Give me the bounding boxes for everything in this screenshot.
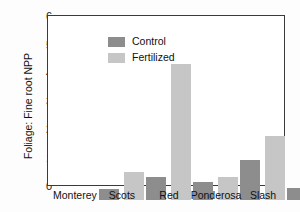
chart-figure: Foliage: Fine root NPP 0123456 Control F…	[0, 0, 300, 212]
legend-swatch-fertilized	[108, 53, 125, 63]
chart-legend: Control Fertilized	[108, 36, 218, 68]
x-tick-label-scots: Scots	[109, 189, 135, 201]
x-tick-label-slash: Slash	[250, 189, 276, 201]
bar-scots-fertilized	[171, 64, 191, 200]
legend-label-fertilized: Fertilized	[132, 52, 175, 63]
legend-item-control: Control	[108, 36, 218, 47]
x-tick-label-monterey: Monterey	[53, 189, 97, 201]
legend-label-control: Control	[132, 36, 166, 47]
x-tick-label-ponderosa: Ponderosa	[191, 189, 242, 201]
legend-item-fertilized: Fertilized	[108, 52, 218, 63]
x-tick-label-red: Red	[159, 189, 178, 201]
legend-swatch-control	[108, 37, 125, 47]
bar-slash-control	[287, 188, 300, 200]
plot-area: Control Fertilized	[47, 15, 285, 186]
